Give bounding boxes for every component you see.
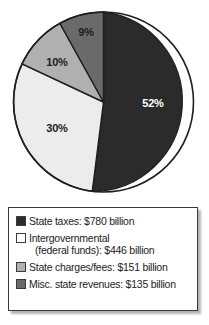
legend-swatch-icon xyxy=(16,262,26,272)
pie-chart-figure: 52% 30% 10% 9% State taxes: $780 billion… xyxy=(0,0,209,325)
legend: State taxes: $780 billion Intergovernmen… xyxy=(8,207,198,311)
legend-label: Misc. state revenues: $135 billion xyxy=(29,278,176,290)
legend-swatch-icon xyxy=(16,279,26,289)
legend-label: State charges/fees: $151 billion xyxy=(29,261,168,273)
legend-label-line1: Intergovernmental xyxy=(29,232,109,244)
pie-label-52: 52% xyxy=(142,97,164,109)
pie-chart-svg: 52% 30% 10% 9% xyxy=(0,0,209,200)
pie-chart-area: 52% 30% 10% 9% xyxy=(0,0,209,200)
legend-label-line2: (federal funds): $446 billion xyxy=(29,244,154,256)
legend-swatch-icon xyxy=(16,233,26,243)
legend-swatch-icon xyxy=(16,216,26,226)
pie-label-30: 30% xyxy=(46,122,68,134)
pie-label-9: 9% xyxy=(78,26,94,38)
legend-item-intergovernmental: Intergovernmental (federal funds): $446 … xyxy=(16,232,193,256)
legend-item-state-taxes: State taxes: $780 billion xyxy=(16,215,193,227)
pie-label-10: 10% xyxy=(46,56,68,68)
legend-item-state-charges-fees: State charges/fees: $151 billion xyxy=(16,261,193,273)
legend-list: State taxes: $780 billion Intergovernmen… xyxy=(16,215,193,290)
legend-item-misc-state-revenues: Misc. state revenues: $135 billion xyxy=(16,278,193,290)
legend-label: Intergovernmental (federal funds): $446 … xyxy=(29,232,154,256)
legend-label: State taxes: $780 billion xyxy=(29,215,134,227)
